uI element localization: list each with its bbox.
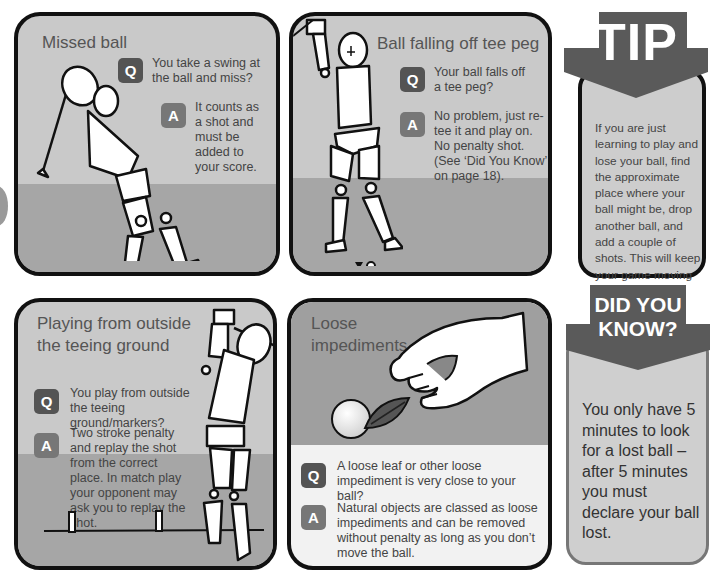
question-text: A loose leaf or other loose impediment i… xyxy=(337,459,542,504)
answer-text: No problem, just re-tee it and play on. … xyxy=(434,109,552,184)
golfer-address-illustration xyxy=(293,16,403,266)
panel-title: Missed ball xyxy=(42,32,127,53)
tip-arrow xyxy=(564,72,708,98)
question-badge: Q xyxy=(400,67,425,92)
did-you-know-heading-line2: KNOW? xyxy=(566,317,710,341)
panel-outside-teeing-ground: Playing from outside the teeing ground Q… xyxy=(14,298,277,570)
answer-badge: A xyxy=(301,505,326,530)
did-you-know-heading-line1: DID YOU xyxy=(566,293,710,317)
answer-text: Natural objects are classed as loose imp… xyxy=(337,501,542,561)
question-text: Your ball falls off a tee peg? xyxy=(434,65,534,95)
tip-body: If you are just learning to play and los… xyxy=(595,120,705,299)
question-badge: Q xyxy=(301,463,326,488)
hand-removing-leaf-illustration xyxy=(287,298,552,443)
did-you-know-arrow xyxy=(566,350,710,370)
panel-loose-impediments: Loose impediments Q A loose leaf or othe… xyxy=(287,298,552,570)
golfer-followthrough-illustration xyxy=(14,298,277,570)
answer-badge: A xyxy=(400,112,425,137)
panel-missed-ball: Missed ball Q You take a swing at the ba… xyxy=(14,12,280,276)
did-you-know-body: You only have 5 minutes to look for a lo… xyxy=(582,400,702,544)
tip-heading: TIP xyxy=(564,12,708,72)
panel-ball-falling-off-tee: Ball falling off tee peg Q Your ball fal… xyxy=(289,12,552,276)
page-edge-tab xyxy=(0,186,8,226)
golfer-missed-swing-illustration xyxy=(28,61,228,261)
